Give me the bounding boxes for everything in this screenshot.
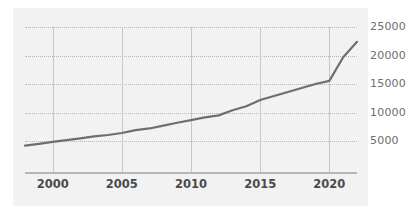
y-axis-tick-label: 25000	[370, 21, 406, 32]
y-axis-tick-label: 10000	[370, 107, 406, 118]
x-axis-line	[25, 172, 357, 174]
x-axis-tick-label: 2005	[106, 178, 138, 190]
plot-area	[25, 27, 357, 172]
gridline-vertical-2000	[53, 27, 54, 172]
y-axis-tick-label: 20000	[370, 50, 406, 61]
x-axis-tick-label: 2010	[175, 178, 207, 190]
x-axis-tick-label: 2015	[244, 178, 276, 190]
y-axis-tick-label: 5000	[370, 135, 399, 146]
gridline-vertical-2010	[191, 27, 192, 172]
line-chart: 5000100001500020000250002000200520102015…	[0, 0, 410, 218]
x-axis-tick-label: 2000	[37, 178, 69, 190]
y-axis-tick-label: 15000	[370, 78, 406, 89]
gridline-vertical-2005	[122, 27, 123, 172]
gridline-vertical-2020	[329, 27, 330, 172]
gridline-vertical-2015	[260, 27, 261, 172]
x-axis-tick-label: 2020	[313, 178, 345, 190]
